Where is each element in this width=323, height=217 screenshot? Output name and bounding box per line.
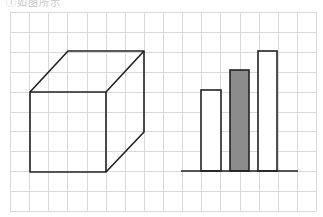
bar-3 [258,51,277,171]
grid-diagram [0,0,323,217]
bar-drawing [181,51,298,171]
bar-2 [230,70,249,171]
bar-1 [201,90,221,171]
